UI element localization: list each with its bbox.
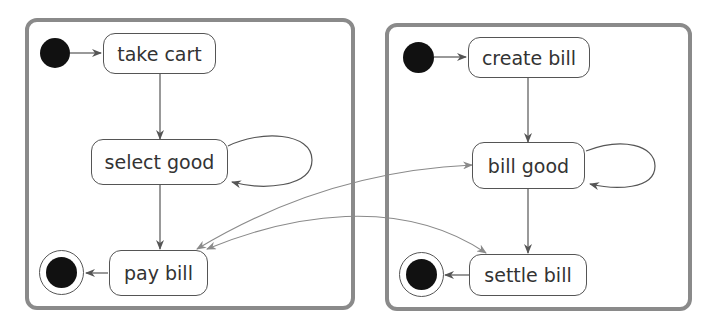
edge-bill-good-self xyxy=(586,144,655,187)
state-take-cart[interactable]: take cart xyxy=(103,33,216,74)
state-pay-bill[interactable]: pay bill xyxy=(109,250,208,296)
initial-node-customer xyxy=(40,38,70,68)
state-select-good[interactable]: select good xyxy=(91,139,228,185)
state-create-bill[interactable]: create bill xyxy=(468,37,590,78)
edge-pay-bill-settle-bill xyxy=(207,216,486,253)
edge-select-good-self xyxy=(228,136,312,186)
final-node-customer xyxy=(39,250,84,295)
state-settle-bill[interactable]: settle bill xyxy=(469,254,587,296)
initial-node-cashier xyxy=(403,42,434,73)
edge-pay-bill-bill-good xyxy=(197,165,472,249)
state-bill-good[interactable]: bill good xyxy=(472,142,585,189)
final-node-cashier xyxy=(399,252,444,297)
